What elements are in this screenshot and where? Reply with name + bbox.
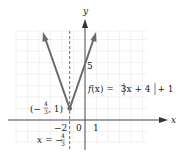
x-tick-1: 1 (93, 123, 99, 133)
svg-text:3: 3 (61, 140, 65, 147)
x-axis (8, 117, 168, 123)
svg-text:4: 4 (61, 132, 65, 139)
right-arrow-head-icon (91, 32, 97, 42)
y-axis-arrow-icon (82, 19, 88, 28)
y-tick-5: 5 (87, 61, 93, 71)
left-arrow-head-icon (43, 32, 49, 42)
function-label: f(x) = 3x + 4 + 1 (87, 83, 174, 95)
vertex-label: (− 4 3 , 1) (30, 100, 63, 115)
y-axis-label: y (82, 6, 89, 16)
graph-canvas: y x 5 −2 0 1 f(x) = 3x + 4 + 1 (− 4 3 , … (0, 0, 184, 156)
x-tick-0: 0 (76, 123, 82, 133)
svg-text:(−: (− (30, 104, 41, 114)
svg-text:, 1): , 1) (48, 104, 63, 114)
vertex-point (67, 106, 72, 111)
svg-text:f(x) = 3x + 4 + 1: f(x) = 3x + 4 + 1 (87, 84, 174, 94)
x-axis-arrow-icon (159, 117, 168, 123)
x-axis-label: x (171, 115, 176, 125)
svg-text:x = −: x = − (37, 135, 63, 145)
dashed-line-label: x = − 4 3 (37, 132, 65, 147)
